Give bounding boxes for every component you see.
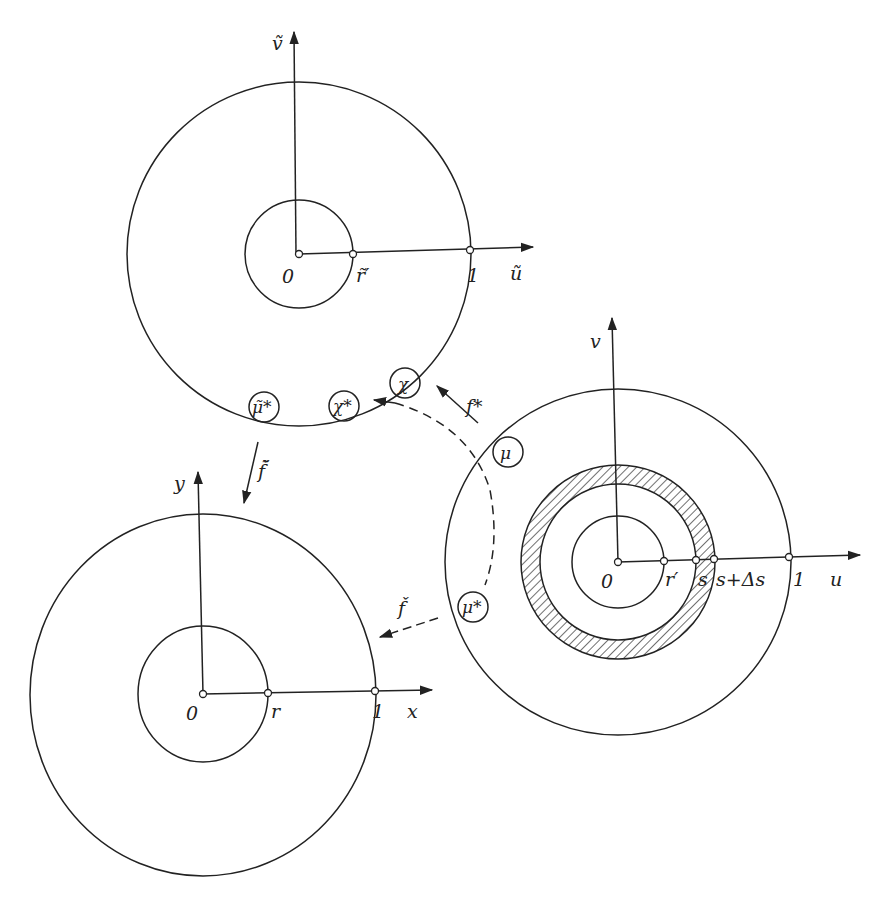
left-unit-point bbox=[372, 688, 379, 695]
right-origin-label: 0 bbox=[601, 570, 613, 592]
right-unit-point bbox=[786, 554, 793, 561]
diagram-canvas: 0 r̃′ 1 ũ ṽ χ χ* μ̃* 0 r′ s s+Δs 1 u v μ bbox=[0, 0, 882, 901]
u-label: u bbox=[830, 568, 842, 590]
left-unit-label: 1 bbox=[372, 700, 384, 722]
r-prime-label: r′ bbox=[665, 568, 679, 590]
s-point bbox=[693, 557, 700, 564]
s-plus-ds-point bbox=[711, 556, 718, 563]
mu-label: μ bbox=[500, 443, 511, 463]
v-label: v bbox=[590, 330, 601, 352]
mu-star-label: μ* bbox=[462, 597, 482, 617]
y-label: y bbox=[173, 472, 185, 494]
left-origin-point bbox=[200, 691, 207, 698]
right-origin-point bbox=[615, 559, 622, 566]
hatched-ring bbox=[0, 0, 882, 901]
r-point bbox=[265, 690, 272, 697]
right-unit-label: 1 bbox=[793, 568, 805, 590]
s-label: s bbox=[698, 568, 708, 590]
r-prime-point bbox=[661, 558, 668, 565]
left-origin-label: 0 bbox=[186, 702, 198, 724]
f-star-label: f* bbox=[464, 395, 483, 417]
x-label: x bbox=[407, 700, 418, 722]
s-plus-ds-label: s+Δs bbox=[716, 568, 765, 590]
right-annulus: 0 r′ s s+Δs 1 u v μ μ* bbox=[0, 0, 882, 901]
